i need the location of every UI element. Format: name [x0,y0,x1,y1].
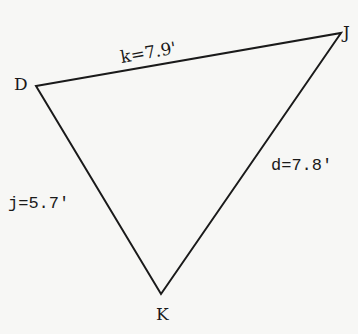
triangle-diagram: D J K k=7.9' d=7.8' j=5.7' [0,0,358,334]
vertex-label-k: K [156,304,169,324]
vertex-label-d: D [14,74,28,94]
vertex-label-j: J [341,22,350,42]
side-label-j: j=5.7' [8,194,69,213]
side-label-d: d=7.8' [271,156,332,175]
